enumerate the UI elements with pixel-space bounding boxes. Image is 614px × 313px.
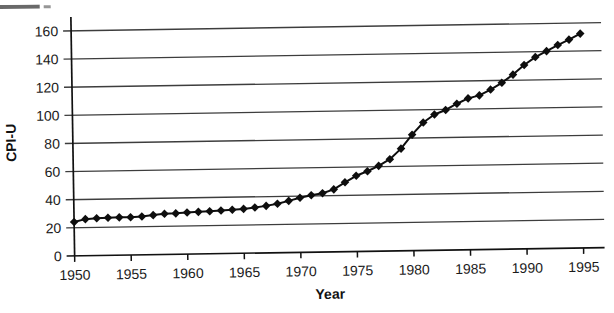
cpi-line-chart: 1950195519601965197019751980198519901995… xyxy=(0,0,614,313)
x-tick-label-1970: 1970 xyxy=(285,263,317,279)
y-tick-label-40: 40 xyxy=(45,192,61,208)
y-tick-label-80: 80 xyxy=(44,136,60,152)
data-point-marker-1952 xyxy=(92,214,101,223)
y-tick-label-0: 0 xyxy=(54,248,62,264)
data-point-marker-1995 xyxy=(576,29,585,38)
y-tick-label-160: 160 xyxy=(35,23,59,39)
gridline-y-120 xyxy=(64,79,602,87)
plot-area: 1950195519601965197019751980198519901995… xyxy=(35,9,605,284)
x-axis-line xyxy=(67,248,605,256)
gridline-y-140 xyxy=(64,51,602,59)
data-point-marker-1961 xyxy=(194,208,203,217)
data-point-marker-1957 xyxy=(149,211,158,220)
x-tick-label-1985: 1985 xyxy=(455,260,487,276)
y-tick-label-140: 140 xyxy=(35,51,59,67)
y-tick-label-100: 100 xyxy=(36,107,60,123)
x-tick-label-1965: 1965 xyxy=(229,264,261,280)
data-point-marker-1994 xyxy=(565,35,574,44)
data-point-marker-1953 xyxy=(104,213,113,222)
y-tick-label-120: 120 xyxy=(36,79,60,95)
data-point-marker-1954 xyxy=(115,213,124,222)
data-point-marker-1966 xyxy=(251,203,260,212)
y-axis-title: CPI-U xyxy=(3,124,20,162)
data-point-marker-1965 xyxy=(239,205,248,214)
data-point-marker-1976 xyxy=(363,167,372,176)
gridline-y-100 xyxy=(64,107,602,115)
data-point-marker-1975 xyxy=(352,171,361,180)
scan-artifact-smudge-small xyxy=(44,5,51,8)
x-tick-label-1950: 1950 xyxy=(59,267,91,283)
data-point-marker-1960 xyxy=(183,208,192,217)
data-point-marker-1987 xyxy=(486,85,495,94)
data-point-marker-1977 xyxy=(374,161,383,170)
gridline-y-60 xyxy=(65,163,603,171)
data-point-marker-1958 xyxy=(160,209,169,218)
x-tick-label-1980: 1980 xyxy=(399,261,431,277)
x-tick-label-1975: 1975 xyxy=(342,262,374,278)
cpi-data-line xyxy=(71,34,583,222)
gridline-y-80 xyxy=(65,135,603,143)
y-tick-label-20: 20 xyxy=(45,220,61,236)
data-point-marker-1984 xyxy=(453,99,462,108)
data-point-marker-1969 xyxy=(284,197,293,206)
data-point-marker-1964 xyxy=(228,205,237,214)
x-tick-label-1960: 1960 xyxy=(172,265,204,281)
data-point-marker-1985 xyxy=(464,94,473,103)
data-point-marker-1962 xyxy=(205,207,214,216)
data-point-marker-1956 xyxy=(138,212,147,221)
data-point-marker-1950 xyxy=(70,218,79,227)
data-point-marker-1955 xyxy=(126,213,135,222)
data-point-marker-1951 xyxy=(81,215,90,224)
gridline-y-160 xyxy=(63,23,601,31)
data-point-marker-1983 xyxy=(441,106,450,115)
x-tick-label-1990: 1990 xyxy=(512,260,544,276)
data-point-marker-1963 xyxy=(217,206,226,215)
x-tick-label-1955: 1955 xyxy=(116,266,148,282)
x-tick-label-1995: 1995 xyxy=(568,259,600,275)
scan-artifact-smudge xyxy=(0,4,40,9)
data-point-marker-1967 xyxy=(262,202,271,211)
data-point-marker-1970 xyxy=(296,193,305,202)
chart-canvas: 1950195519601965197019751980198519901995… xyxy=(0,0,614,313)
data-point-marker-1959 xyxy=(171,209,180,218)
gridline-y-20 xyxy=(66,219,604,227)
x-axis-title: Year xyxy=(315,286,345,302)
data-point-marker-1992 xyxy=(542,47,551,56)
data-point-marker-1993 xyxy=(553,41,562,50)
data-point-marker-1971 xyxy=(307,191,316,200)
y-tick-label-60: 60 xyxy=(45,164,61,180)
data-point-marker-1986 xyxy=(475,91,484,100)
data-point-marker-1968 xyxy=(273,199,282,208)
